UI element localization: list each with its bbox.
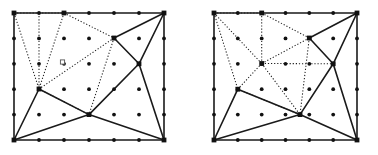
mesh-edge-dotted bbox=[39, 13, 64, 89]
mesh-edge-solid bbox=[238, 89, 300, 114]
grid-point-boundary bbox=[212, 113, 216, 117]
mesh-vertex bbox=[12, 11, 17, 16]
mesh-vertex bbox=[259, 11, 264, 16]
mesh-vertex bbox=[331, 61, 336, 66]
grid-point bbox=[137, 37, 141, 41]
mesh-vertex bbox=[212, 138, 217, 143]
mesh-vertex bbox=[37, 87, 42, 92]
grid-point-boundary bbox=[162, 113, 166, 117]
grid-point-boundary bbox=[236, 11, 240, 15]
right-panel bbox=[212, 11, 360, 143]
mesh-edge-solid bbox=[214, 89, 238, 140]
grid-point bbox=[87, 87, 91, 91]
grid-point-boundary bbox=[87, 138, 91, 142]
grid-point bbox=[284, 87, 288, 91]
mesh-edge-solid bbox=[309, 38, 333, 64]
grid-point bbox=[37, 62, 41, 66]
grid-point bbox=[307, 113, 311, 117]
grid-point bbox=[307, 62, 311, 66]
grid-point-boundary bbox=[355, 87, 359, 91]
grid-point bbox=[331, 113, 335, 117]
grid-point-boundary bbox=[284, 11, 288, 15]
grid-point bbox=[236, 113, 240, 117]
grid-point bbox=[62, 113, 66, 117]
grid-point-boundary bbox=[284, 138, 288, 142]
mesh-vertex bbox=[298, 112, 303, 117]
grid-point-boundary bbox=[212, 87, 216, 91]
grid-point bbox=[37, 37, 41, 41]
mesh-edge-solid bbox=[114, 38, 139, 64]
mesh-edge-dotted bbox=[262, 38, 310, 64]
grid-point-boundary bbox=[62, 138, 66, 142]
grid-point-boundary bbox=[162, 87, 166, 91]
grid-point-boundary bbox=[37, 138, 41, 142]
grid-point-boundary bbox=[212, 62, 216, 66]
grid-point-boundary bbox=[137, 11, 141, 15]
mesh-vertex bbox=[62, 11, 67, 16]
mesh-vertex bbox=[12, 138, 17, 143]
grid-point bbox=[236, 37, 240, 41]
grid-point-boundary bbox=[12, 62, 16, 66]
grid-point-boundary bbox=[260, 138, 264, 142]
mesh-edge-solid bbox=[139, 13, 164, 64]
mesh-vertex bbox=[259, 61, 264, 66]
grid-point-boundary bbox=[162, 37, 166, 41]
mesh-vertex bbox=[137, 61, 142, 66]
left-panel-solid-edges bbox=[14, 13, 164, 140]
grid-point-boundary bbox=[212, 37, 216, 41]
mesh-vertex bbox=[162, 11, 167, 16]
grid-point-boundary bbox=[12, 113, 16, 117]
grid-point-boundary bbox=[355, 113, 359, 117]
right-panel-solid-edges bbox=[214, 13, 357, 140]
mesh-edge-dotted bbox=[214, 13, 238, 89]
mesh-edge-dotted bbox=[89, 38, 114, 115]
grid-point bbox=[331, 37, 335, 41]
grid-point-boundary bbox=[307, 138, 311, 142]
mesh-edge-solid bbox=[214, 115, 300, 140]
mesh-edge-solid bbox=[39, 89, 89, 115]
grid-point bbox=[284, 113, 288, 117]
grid-point bbox=[87, 37, 91, 41]
grid-point bbox=[284, 37, 288, 41]
grid-point bbox=[137, 113, 141, 117]
mesh-edge-dotted bbox=[262, 13, 310, 38]
mesh-edge-solid bbox=[139, 64, 164, 140]
grid-point-boundary bbox=[307, 11, 311, 15]
left-panel bbox=[12, 11, 167, 143]
grid-point bbox=[37, 113, 41, 117]
grid-point bbox=[112, 87, 116, 91]
mesh-vertex bbox=[112, 36, 117, 41]
grid-point-boundary bbox=[355, 37, 359, 41]
grid-point-boundary bbox=[137, 138, 141, 142]
mesh-vertex bbox=[162, 138, 167, 143]
grid-point-boundary bbox=[162, 62, 166, 66]
hollow-square-marker bbox=[60, 60, 64, 64]
grid-point bbox=[284, 62, 288, 66]
grid-point bbox=[260, 87, 264, 91]
mesh-edge-solid bbox=[333, 64, 357, 140]
grid-point-boundary bbox=[112, 11, 116, 15]
grid-point-boundary bbox=[355, 62, 359, 66]
mesh-edge-solid bbox=[300, 115, 357, 140]
mesh-edge-solid bbox=[300, 64, 333, 115]
mesh-edge-dotted bbox=[14, 13, 39, 89]
mesh-vertex bbox=[355, 138, 360, 143]
mesh-edge-solid bbox=[114, 13, 164, 38]
mesh-figure bbox=[0, 0, 378, 155]
grid-point bbox=[307, 87, 311, 91]
mesh-edge-dotted bbox=[238, 64, 262, 90]
grid-point-boundary bbox=[37, 11, 41, 15]
mesh-vertex bbox=[355, 11, 360, 16]
grid-point bbox=[236, 62, 240, 66]
grid-point bbox=[87, 62, 91, 66]
grid-point bbox=[260, 113, 264, 117]
mesh-vertex bbox=[235, 87, 240, 92]
grid-point bbox=[112, 113, 116, 117]
grid-point-boundary bbox=[331, 11, 335, 15]
grid-point-boundary bbox=[331, 138, 335, 142]
mesh-vertex bbox=[87, 112, 92, 117]
grid-point bbox=[62, 87, 66, 91]
grid-point-boundary bbox=[12, 37, 16, 41]
mesh-vertex bbox=[212, 11, 217, 16]
grid-point bbox=[137, 87, 141, 91]
